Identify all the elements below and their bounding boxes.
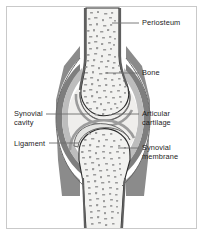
label-synovial-cavity: Synovial cavity: [14, 110, 43, 127]
upper-bone: [81, 8, 129, 116]
label-articular-cartilage: Articular cartilage: [142, 110, 171, 127]
label-periosteum: Periosteum: [142, 19, 180, 28]
label-synovial-membrane: Synovial membrane: [142, 144, 178, 161]
figure-synovial-joint: Periosteum Bone Articular cartilage Syno…: [0, 0, 205, 237]
label-ligament: Ligament: [14, 140, 45, 149]
label-bone: Bone: [142, 69, 160, 78]
